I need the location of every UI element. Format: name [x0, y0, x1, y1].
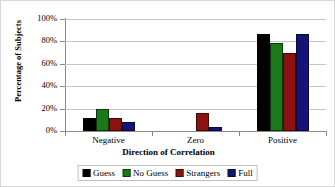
y-tick-label-wrap: 40%: [7, 81, 57, 91]
legend-label: Guess: [93, 168, 115, 178]
bar-guess: [257, 34, 270, 131]
plot-area: [65, 19, 326, 131]
legend-swatch-icon: [227, 169, 235, 177]
bar-strangers: [283, 53, 296, 131]
y-tick-label-wrap: 60%: [7, 59, 57, 69]
y-tick-mark: [60, 41, 65, 42]
bar-group-positive: [239, 19, 326, 131]
bar-full: [209, 127, 222, 131]
x-tick-mark: [65, 131, 66, 136]
gridline: [65, 131, 326, 132]
bar-group-zero: [152, 19, 239, 131]
y-tick-label-wrap: 80%: [7, 36, 57, 46]
bar-no-guess: [96, 109, 109, 131]
y-tick-label: 80%: [7, 36, 57, 45]
bar-chart: Percentage of Subjects 0%20%40%60%80%100…: [0, 0, 335, 187]
legend-swatch-icon: [122, 169, 130, 177]
legend-item-strangers[interactable]: Strangers: [175, 168, 220, 178]
y-tick-label-wrap: 20%: [7, 104, 57, 114]
bar-full: [122, 122, 135, 131]
legend-label: Strangers: [186, 168, 220, 178]
y-tick-label: 100%: [7, 14, 57, 23]
legend-item-no-guess[interactable]: No Guess: [122, 168, 168, 178]
bar-guess: [83, 118, 96, 131]
legend-label: No Guess: [133, 168, 168, 178]
y-tick-label: 0%: [7, 126, 57, 135]
legend-item-guess[interactable]: Guess: [82, 168, 115, 178]
legend-label: Full: [238, 168, 253, 178]
y-tick-mark: [60, 19, 65, 20]
x-axis-title: Direction of Correlation: [1, 147, 335, 157]
y-tick-label: 60%: [7, 59, 57, 68]
y-tick-label-wrap: 100%: [7, 14, 57, 24]
legend-swatch-icon: [175, 169, 183, 177]
y-tick-mark: [60, 86, 65, 87]
y-tick-label: 40%: [7, 81, 57, 90]
y-tick-mark: [60, 64, 65, 65]
bar-strangers: [109, 118, 122, 131]
x-tick-label-negative: Negative: [64, 135, 154, 145]
y-tick-label-wrap: 0%: [7, 126, 57, 136]
bar-full: [296, 34, 309, 131]
bar-no-guess: [270, 43, 283, 131]
bar-strangers: [196, 113, 209, 131]
legend-swatch-icon: [82, 169, 90, 177]
legend-item-full[interactable]: Full: [227, 168, 253, 178]
y-tick-label: 20%: [7, 104, 57, 113]
x-tick-label-zero: Zero: [151, 135, 241, 145]
chart-legend: GuessNo GuessStrangersFull: [77, 165, 258, 181]
y-tick-mark: [60, 109, 65, 110]
x-tick-label-positive: Positive: [238, 135, 328, 145]
bar-group-negative: [65, 19, 152, 131]
